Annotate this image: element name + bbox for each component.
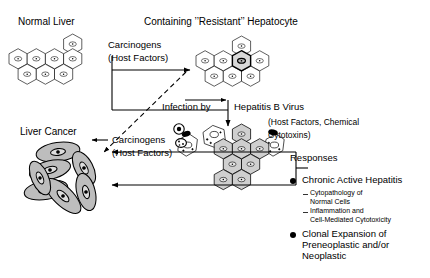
resistant-cell	[232, 51, 250, 71]
normal-liver-cluster	[9, 34, 82, 84]
infection-by-label: Infection by	[162, 101, 211, 112]
carcinogens-mid-label: Carcinogens	[112, 134, 165, 145]
virus-particle	[176, 139, 187, 148]
cytotoxins-label: Cytotoxins)	[268, 130, 311, 140]
liver-cancer-label: Liver Cancer	[20, 126, 77, 138]
sub-bullet-dash-icon	[303, 212, 308, 213]
containing-resistant-hepatocyte-label: Containing ’’Resistant’’ Hepatocyte	[144, 16, 298, 28]
resistant-hepatocyte-cluster	[196, 36, 269, 86]
host-factors-top-label: (Host Factors)	[108, 52, 168, 63]
response-label: Chronic Active Hepatitis	[302, 174, 402, 185]
host-factors-mid-label: (Host Factors)	[112, 147, 172, 158]
response-sub-cytopathology: Cytopathology of Normal Cells	[310, 189, 363, 206]
virus-particle	[174, 124, 184, 134]
liver-cancer-cluster	[23, 139, 101, 218]
response-label: Clonal Expansion of Preneoplastic and/or…	[302, 228, 430, 261]
bullet-dot-icon	[290, 178, 296, 184]
response-sub-inflammation: Inflammation and Cell-Mediated Cytotoxic…	[310, 207, 391, 224]
sub-bullet-dash-icon	[303, 194, 308, 195]
response-bullet-clonal-expansion: Clonal Expansion of Preneoplastic and/or…	[290, 228, 430, 261]
carcinogens-top-label: Carcinogens	[108, 39, 161, 50]
normal-liver-label: Normal Liver	[18, 16, 75, 28]
host-factors-chemical-label: (Host Factors, Chemical	[268, 117, 359, 127]
responses-heading: Responses	[290, 152, 338, 163]
bullet-dot-icon	[290, 232, 296, 238]
hepatitis-b-virus-label: Hepatitis B Virus	[234, 101, 304, 112]
response-bullet-chronic-active-hepatitis: Chronic Active Hepatitis	[290, 174, 402, 185]
